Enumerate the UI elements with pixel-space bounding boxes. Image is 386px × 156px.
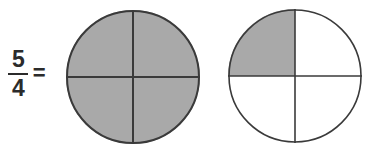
fraction-numerator: 5 — [8, 47, 29, 72]
fraction-five-fourths: 5 4 — [8, 47, 29, 101]
circle-model-2 — [228, 9, 362, 143]
equals-sign: = — [33, 60, 46, 86]
fraction-expression: 5 4 = — [8, 44, 46, 104]
fraction-circle-diagram: 5 4 = — [0, 0, 386, 156]
circle-model-1 — [66, 10, 200, 144]
fraction-denominator: 4 — [8, 76, 29, 101]
